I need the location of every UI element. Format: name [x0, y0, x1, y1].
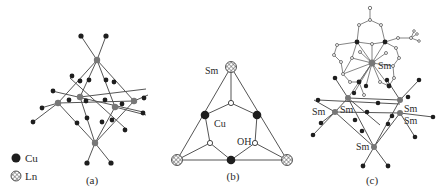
panel-b-oh-label: OH — [237, 136, 251, 147]
panel-a-structure — [31, 33, 148, 165]
oh-group-right — [252, 140, 257, 145]
oh-group-left — [207, 140, 212, 145]
ln-legend-icon — [11, 171, 21, 181]
legend-ln-label: Ln — [25, 170, 38, 182]
panel-a-label: (a) — [86, 174, 99, 187]
panel-c-sm-right-upper-label: Sm — [404, 103, 418, 114]
panel-c-sm-center-label: Sm — [378, 60, 392, 71]
panel-c-label: (c) — [366, 174, 379, 187]
cu-atom-bottom — [227, 156, 236, 165]
panel-b-structure — [172, 62, 293, 166]
legend-cu-label: Cu — [25, 152, 38, 164]
cu-legend-icon — [12, 154, 21, 163]
panel-c-sm-left-inner-label: Sm — [340, 104, 354, 115]
panel-c-structure — [311, 6, 436, 168]
panel-c-sm-bottom-label: Sm — [356, 141, 370, 152]
legend: Cu Ln — [11, 152, 38, 182]
panel-b-cu-label: Cu — [214, 118, 226, 129]
sm-atom-top — [226, 62, 237, 73]
panel-b-sm-label: Sm — [205, 65, 219, 76]
panel-b-label: (b) — [227, 170, 240, 183]
panel-c-sm-right-lower-label: Sm — [404, 115, 418, 126]
sm-atom-bottom-left — [172, 155, 183, 166]
cu-atom-right — [253, 111, 262, 120]
cu-atom-left — [201, 111, 210, 120]
cluster-structure-figure: Cu Ln (a) — [0, 0, 446, 193]
oh-group-top — [228, 100, 233, 105]
panel-c-sm-left-outer-label: Sm — [312, 106, 326, 117]
sm-atom-bottom-right — [282, 155, 293, 166]
